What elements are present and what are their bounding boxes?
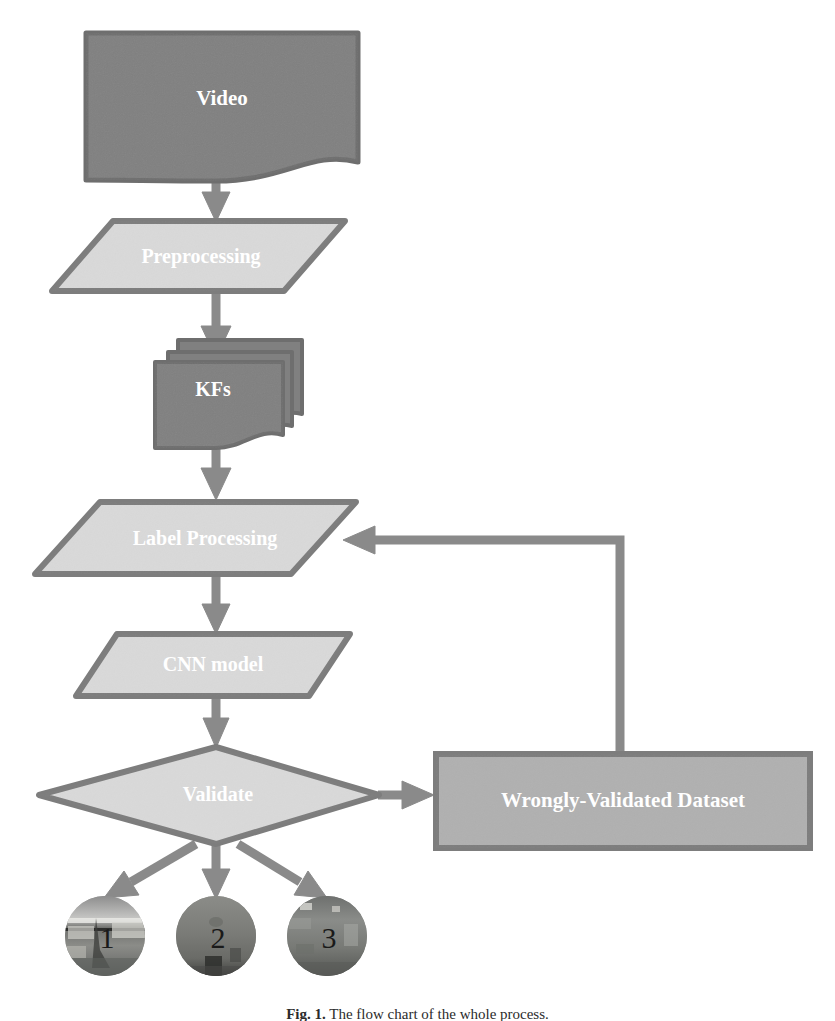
figure-caption-body: The flow chart of the whole process. xyxy=(329,1006,549,1021)
output-class-1-number: 1 xyxy=(100,921,115,954)
node-validate-label: Validate xyxy=(183,783,254,805)
connector-label-processing-to-cnn-model xyxy=(202,572,230,634)
output-class-2-number: 2 xyxy=(211,921,226,954)
node-validate[interactable]: Validate xyxy=(39,747,379,844)
node-preprocessing-label: Preprocessing xyxy=(141,245,260,268)
node-wrongly-validated-dataset-label: Wrongly-Validated Dataset xyxy=(501,788,745,812)
node-cnn-model-label: CNN model xyxy=(163,653,264,675)
node-video[interactable]: Video xyxy=(86,33,358,181)
connector-validate-to-wrongly-validated-dataset xyxy=(378,781,434,809)
connector-feedback-to-label-processing xyxy=(343,526,620,754)
connector-cnn-model-to-validate xyxy=(203,694,229,748)
node-label-processing-label: Label Processing xyxy=(133,527,278,550)
connector-validate-to-output-3 xyxy=(238,844,327,898)
output-class-1[interactable]: 1 xyxy=(65,896,146,976)
output-class-3-number: 3 xyxy=(322,921,337,954)
node-video-label: Video xyxy=(196,86,248,110)
node-wrongly-validated-dataset[interactable]: Wrongly-Validated Dataset xyxy=(436,754,810,848)
node-keyframes[interactable]: KFs xyxy=(155,340,302,448)
connector-video-to-preprocessing xyxy=(202,178,230,222)
connector-validate-to-output-1 xyxy=(104,844,196,898)
node-label-processing[interactable]: Label Processing xyxy=(35,502,356,574)
figure-caption: Fig. 1. The flow chart of the whole proc… xyxy=(0,1006,835,1021)
node-cnn-model[interactable]: CNN model xyxy=(76,634,350,696)
figure-caption-label: Fig. 1. xyxy=(286,1006,326,1021)
node-keyframes-label: KFs xyxy=(195,378,231,400)
connector-validate-to-output-2 xyxy=(202,844,230,899)
flowchart-diagram: Video Preprocessing KFs Label Processing xyxy=(0,0,835,1021)
output-class-2[interactable]: 2 xyxy=(176,896,256,976)
node-preprocessing[interactable]: Preprocessing xyxy=(52,221,345,291)
output-class-3[interactable]: 3 xyxy=(287,896,367,976)
figure-canvas: Video Preprocessing KFs Label Processing xyxy=(0,0,835,1021)
